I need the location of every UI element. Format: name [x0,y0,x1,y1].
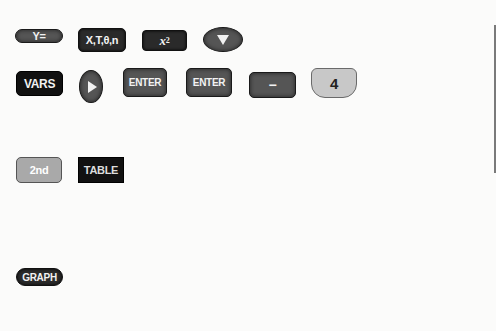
y-equals-key[interactable]: Y= [15,29,63,43]
down-arrow-key[interactable] [203,27,243,52]
graph-key[interactable]: GRAPH [16,268,63,286]
enter-label-1: ENTER [129,77,161,88]
graph-label: GRAPH [22,272,57,283]
four-key[interactable]: 4 [311,68,357,98]
four-label: 4 [330,75,338,92]
y-equals-label: Y= [32,30,45,42]
enter-key-2[interactable]: ENTER [186,68,232,97]
vars-label: VARS [24,77,55,91]
x-squared-key[interactable]: x2 [142,30,187,51]
second-key[interactable]: 2nd [16,157,62,183]
xt-theta-n-label: X,T,θ,n [86,34,119,46]
second-label: 2nd [30,164,49,176]
enter-label-2: ENTER [193,77,225,88]
down-arrow-icon [217,35,229,45]
minus-key[interactable]: − [249,72,296,98]
x-squared-exponent: 2 [166,36,170,45]
table-label: TABLE [84,164,118,176]
xt-theta-n-key[interactable]: X,T,θ,n [78,28,126,52]
right-arrow-key[interactable] [79,70,103,103]
minus-label: − [269,77,277,93]
table-label-box[interactable]: TABLE [78,157,124,183]
vars-key[interactable]: VARS [16,71,63,96]
enter-key-1[interactable]: ENTER [123,68,167,97]
right-arrow-icon [88,81,97,93]
